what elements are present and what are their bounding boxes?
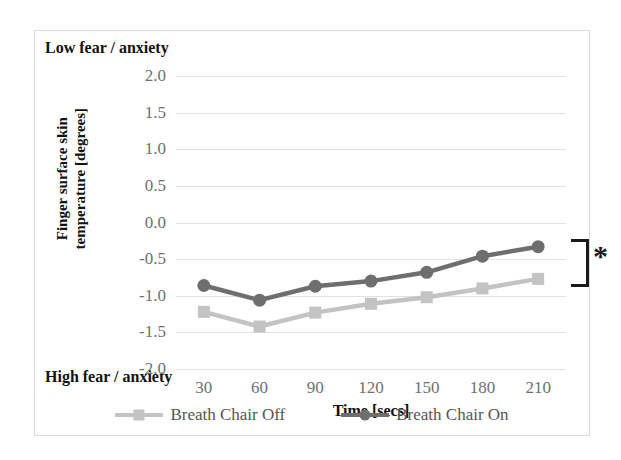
y-axis-tick-label: 2.0 [145, 66, 166, 86]
legend-label: Breath Chair Off [170, 405, 285, 425]
data-point-square [421, 291, 433, 303]
x-axis-tick-label: 180 [470, 378, 496, 398]
y-axis-tick-label: 0.5 [145, 176, 166, 196]
data-point-square [532, 273, 544, 285]
y-axis-tick-label: -0.5 [139, 249, 166, 269]
y-axis-tick-label: -1.5 [139, 322, 166, 342]
data-point-circle [476, 250, 489, 263]
chart-legend: Breath Chair OffBreath Chair On [35, 405, 589, 425]
data-point-circle [420, 266, 433, 279]
y-axis-title: Finger surface skin temperature [degrees… [54, 54, 89, 304]
x-axis-tick-label: 90 [307, 378, 324, 398]
series-layer [176, 76, 566, 369]
plot-area: 2.01.51.00.50.0-0.5-1.0-1.5-2.0 30609012… [176, 76, 566, 369]
x-axis-tick-label: 150 [414, 378, 440, 398]
y-axis-tick-label: -1.0 [139, 286, 166, 306]
chart-figure: Low fear / anxiety High fear / anxiety F… [34, 30, 590, 436]
data-point-circle [309, 280, 322, 293]
legend-label: Breath Chair On [396, 405, 508, 425]
x-axis-tick-label: 60 [251, 378, 268, 398]
gridline [176, 369, 566, 370]
y-axis-tick-label: 1.0 [145, 139, 166, 159]
legend-item[interactable]: Breath Chair Off [115, 405, 285, 425]
data-point-square [309, 307, 321, 319]
data-point-square [254, 321, 266, 333]
data-point-square [476, 282, 488, 294]
data-point-square [365, 298, 377, 310]
x-axis-tick-label: 30 [195, 378, 212, 398]
legend-swatch [115, 408, 163, 422]
legend-item[interactable]: Breath Chair On [341, 405, 508, 425]
data-point-square [198, 306, 210, 318]
legend-swatch [341, 408, 389, 422]
significance-asterisk: * [593, 241, 608, 271]
y-axis-title-line2: temperature [degrees] [72, 54, 90, 304]
data-point-circle [532, 240, 545, 253]
significance-bracket [571, 239, 589, 287]
y-axis-title-line1: Finger surface skin [54, 54, 72, 304]
y-axis-tick-label: -2.0 [139, 359, 166, 379]
legend-marker-square-icon [134, 410, 145, 421]
y-axis-tick-label: 1.5 [145, 103, 166, 123]
y-axis-tick-label: 0.0 [145, 213, 166, 233]
series-breath-chair-on [197, 240, 544, 306]
legend-marker-circle-icon [360, 410, 371, 421]
x-axis-tick-label: 210 [525, 378, 551, 398]
data-point-circle [253, 294, 266, 307]
x-axis-tick-label: 120 [358, 378, 384, 398]
data-point-circle [197, 279, 210, 292]
significance-annotation: * [571, 239, 619, 299]
data-point-circle [365, 275, 378, 288]
